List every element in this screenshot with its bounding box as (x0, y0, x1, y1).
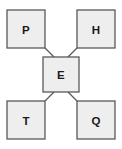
diagram-canvas: P H E T Q (0, 0, 122, 149)
node-t-label: T (22, 115, 29, 127)
node-h[interactable]: H (77, 10, 115, 48)
node-t[interactable]: T (7, 101, 45, 139)
edge-q-e (68, 92, 77, 101)
edge-t-e (45, 92, 54, 101)
node-link-diagram: P H E T Q (0, 0, 122, 149)
node-q-label: Q (91, 115, 100, 127)
node-h-label: H (92, 24, 101, 36)
node-e-label: E (57, 69, 65, 81)
node-e[interactable]: E (43, 57, 79, 92)
edge-p-e (45, 48, 54, 57)
node-p-label: P (22, 24, 30, 36)
edge-h-e (68, 48, 77, 57)
node-p[interactable]: P (7, 10, 45, 48)
node-q[interactable]: Q (77, 101, 115, 139)
